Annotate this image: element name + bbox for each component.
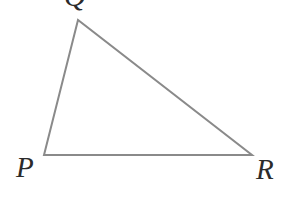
vertex-label-q: Q — [64, 0, 86, 11]
vertex-label-r: R — [256, 155, 274, 184]
geometry-figure: P Q R — [0, 0, 290, 197]
triangle-outline — [44, 20, 252, 155]
vertex-label-p: P — [16, 153, 34, 182]
triangle-shape — [0, 0, 290, 197]
